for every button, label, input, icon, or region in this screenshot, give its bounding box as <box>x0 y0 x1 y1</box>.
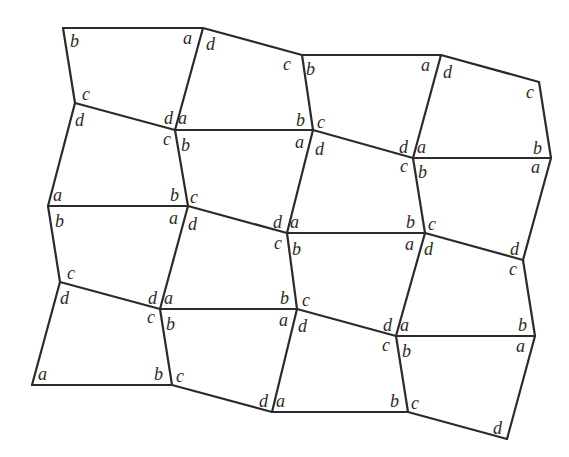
quadrilateral-tiling-diagram: badcbadccddacbbcaddabcbaabcbaddabccbaddc… <box>0 0 569 457</box>
corner-label: b <box>292 239 301 259</box>
corner-label: b <box>533 138 542 158</box>
corner-label: a <box>164 288 173 308</box>
corner-label: d <box>424 239 434 259</box>
corner-label: d <box>75 110 85 130</box>
corner-label: b <box>306 59 315 79</box>
corner-label: a <box>38 364 47 384</box>
corner-label: c <box>526 82 534 102</box>
corner-label: c <box>400 156 408 176</box>
corner-label: b <box>390 391 399 411</box>
corner-label: c <box>176 366 184 386</box>
corner-label: a <box>417 137 426 157</box>
tiling-edges <box>32 28 551 439</box>
corner-label: b <box>418 162 427 182</box>
corner-label: b <box>166 314 175 334</box>
corner-label: b <box>296 110 305 130</box>
corner-label: c <box>147 307 155 327</box>
edge-HI <box>313 130 413 158</box>
corner-label: c <box>509 259 517 279</box>
corner-label: d <box>298 316 308 336</box>
edge-DE <box>441 55 539 82</box>
corner-label: d <box>315 139 325 159</box>
corner-label: a <box>531 157 540 177</box>
corner-label: c <box>67 263 75 283</box>
edge-BC <box>203 28 302 55</box>
corner-label: a <box>276 391 285 411</box>
corner-label: d <box>148 288 158 308</box>
corner-label: c <box>302 290 310 310</box>
corner-label: b <box>70 31 79 51</box>
corner-label: a <box>169 208 178 228</box>
corner-label: a <box>421 55 430 75</box>
corner-label: c <box>411 393 419 413</box>
corner-label: d <box>399 137 409 157</box>
corner-label: a <box>178 108 187 128</box>
corner-label: d <box>206 34 216 54</box>
edge-RS <box>297 309 396 336</box>
edge-VW <box>172 385 272 412</box>
corner-label: c <box>428 214 436 234</box>
corner-label: a <box>290 212 299 232</box>
corner-label: b <box>280 288 289 308</box>
corner-label: c <box>382 335 390 355</box>
corner-label: a <box>295 132 304 152</box>
corner-label: c <box>163 129 171 149</box>
edge-FG <box>75 103 175 130</box>
corner-label: d <box>443 62 453 82</box>
corner-label: d <box>383 315 393 335</box>
corner-label: c <box>82 84 90 104</box>
corner-label: d <box>60 288 70 308</box>
corner-label: b <box>406 212 415 232</box>
corner-label: c <box>283 54 291 74</box>
corner-label: a <box>53 185 62 205</box>
corner-label: d <box>164 108 174 128</box>
corner-label: d <box>188 214 198 234</box>
corner-label: b <box>55 211 64 231</box>
corner-label: c <box>274 233 282 253</box>
corner-label: a <box>516 336 525 356</box>
corner-label: b <box>170 185 179 205</box>
edge-PQ <box>60 282 160 309</box>
corner-label: b <box>402 341 411 361</box>
corner-label: a <box>183 28 192 48</box>
corner-label: b <box>154 364 163 384</box>
corner-label: a <box>400 315 409 335</box>
corner-label: a <box>405 234 414 254</box>
edge-NO <box>425 233 523 260</box>
corner-label: b <box>181 135 190 155</box>
corner-label: a <box>279 310 288 330</box>
corner-label: d <box>259 391 269 411</box>
corner-label: d <box>493 418 503 438</box>
corner-label: c <box>190 187 198 207</box>
corner-label: d <box>273 212 283 232</box>
corner-label: d <box>510 239 520 259</box>
corner-label: b <box>518 315 527 335</box>
corner-label: c <box>317 112 325 132</box>
